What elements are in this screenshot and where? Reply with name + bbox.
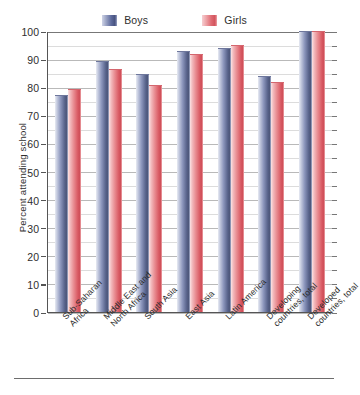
y-axis-right-tick: [332, 32, 337, 33]
bar-group: [89, 32, 130, 312]
y-axis-right-tick: [332, 242, 337, 243]
bar-boys: [218, 48, 231, 312]
x-axis-tick-cell: Developingcountries, total: [251, 313, 292, 373]
y-axis-tick-mark: [41, 200, 46, 201]
legend-swatch-girls: [202, 15, 217, 26]
legend-swatch-boys: [102, 15, 117, 26]
y-axis-tick-label: 70: [27, 110, 39, 122]
y-axis-tick-label: 60: [27, 138, 39, 150]
legend-item-boys: Boys: [102, 14, 148, 26]
y-axis-tick-label: 10: [27, 279, 39, 291]
bar-group: [170, 32, 211, 312]
y-axis-right-tick: [332, 144, 337, 145]
bar-boys: [96, 61, 109, 312]
legend-label-girls: Girls: [224, 14, 247, 26]
y-axis-right-tick: [332, 172, 337, 173]
legend-label-boys: Boys: [124, 14, 148, 26]
y-axis-right-tick: [332, 60, 337, 61]
y-axis-right-tick: [332, 116, 337, 117]
footer-rule: [14, 378, 334, 379]
y-axis-tick-mark: [41, 116, 46, 117]
y-axis-right-tick: [332, 74, 337, 75]
y-axis-right-tick: [332, 256, 337, 257]
y-axis-tick-mark: [41, 256, 46, 257]
y-axis-tick-mark: [41, 144, 46, 145]
y-axis-tick-label: 20: [27, 251, 39, 263]
bar-group: [129, 32, 170, 312]
y-axis-right-tick: [332, 102, 337, 103]
bar-girls: [271, 82, 284, 312]
chart-legend: Boys Girls: [0, 11, 349, 29]
x-axis-tick-labels: Sub-SaharanAfricaMiddle East andNorth Af…: [47, 313, 332, 373]
y-axis-tick-mark: [41, 172, 46, 173]
y-axis-right-tick: [332, 228, 337, 229]
x-axis-tick-cell: South Asia: [128, 313, 169, 373]
y-axis-tick-mark: [41, 88, 46, 89]
bar-girls: [109, 69, 122, 312]
x-axis-tick-cell: Latin America: [210, 313, 251, 373]
y-axis-tick-label: 50: [27, 167, 39, 179]
bar-groups: [48, 32, 332, 312]
x-axis-tick-cell: East Asia: [169, 313, 210, 373]
bar-boys: [55, 95, 68, 312]
y-axis-tick-label: 90: [27, 54, 39, 66]
x-axis-tick-cell: Developedcountries, total: [291, 313, 332, 373]
y-axis-right-tick: [332, 200, 337, 201]
y-axis-right-tick: [332, 158, 337, 159]
bar-group: [210, 32, 251, 312]
y-axis-tick-label: 30: [27, 223, 39, 235]
bar-girls: [68, 89, 81, 312]
y-axis-tick-label: 80: [27, 82, 39, 94]
bar-group: [251, 32, 292, 312]
y-axis-right-tick: [332, 88, 337, 89]
y-axis-tick-label: 40: [27, 195, 39, 207]
y-axis-right-tick: [332, 46, 337, 47]
y-axis-right-tick: [332, 186, 337, 187]
y-axis-tick-mark: [41, 284, 46, 285]
legend-item-girls: Girls: [202, 14, 247, 26]
bar-boys: [299, 31, 312, 312]
y-axis-right-tick: [332, 270, 337, 271]
bar-girls: [231, 45, 244, 312]
y-axis-tick-mark: [41, 60, 46, 61]
x-axis-tick-cell: Sub-SaharanAfrica: [47, 313, 88, 373]
x-axis-tick-cell: Middle East andNorth Africa: [88, 313, 129, 373]
bar-group: [291, 32, 332, 312]
bar-boys: [177, 51, 190, 312]
y-axis-tick-mark: [41, 228, 46, 229]
y-axis-tick-label: 100: [21, 26, 39, 38]
bar-girls: [190, 54, 203, 312]
y-axis-tick-labels: 0102030405060708090100: [0, 32, 45, 313]
bar-group: [48, 32, 89, 312]
y-axis-tick-mark: [41, 313, 46, 314]
y-axis-right-tick: [332, 130, 337, 131]
bar-girls: [312, 31, 325, 312]
y-axis-right-tick: [332, 214, 337, 215]
y-axis-tick-label: 0: [33, 307, 39, 319]
plot-area: [47, 32, 332, 313]
y-axis-tick-mark: [41, 32, 46, 33]
